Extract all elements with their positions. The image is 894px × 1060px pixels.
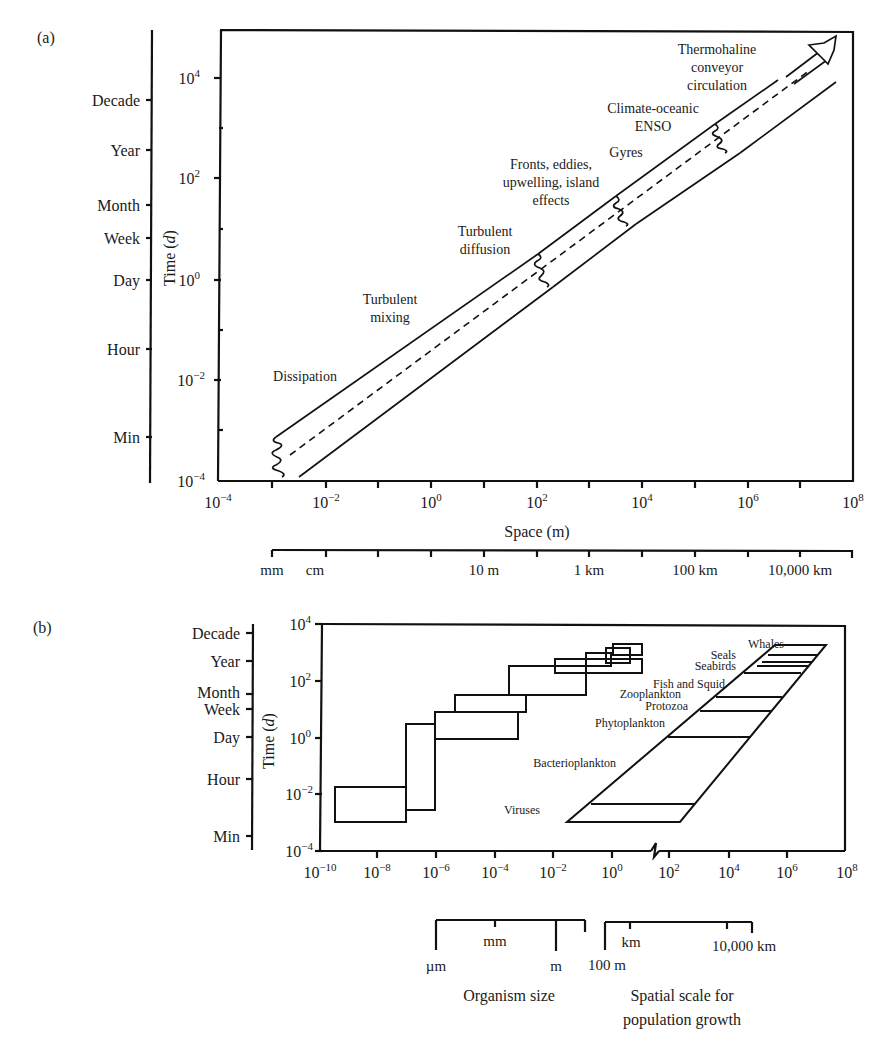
b-x-tick-1e-4: 10−4 xyxy=(481,861,509,881)
spatial-label-km: km xyxy=(621,934,641,950)
spatial-title-l2: population growth xyxy=(623,1011,741,1029)
box-whales xyxy=(613,644,642,655)
b-x-tick-1e2: 102 xyxy=(658,861,680,881)
x-tick-1e-2: 10−2 xyxy=(312,491,340,511)
label-bacterioplankton: Bacterioplankton xyxy=(533,756,616,770)
panel-b-label: (b) xyxy=(33,619,52,637)
process-dissipation: Dissipation xyxy=(273,369,337,384)
x-tick-1e4: 104 xyxy=(631,491,653,511)
time-label-hour: Hour xyxy=(107,341,141,358)
label-seabirds: Seabirds xyxy=(695,659,737,673)
process-enso-l1: Climate-oceanic xyxy=(607,101,699,116)
dist-label-cm: cm xyxy=(306,562,325,578)
spatial-label-10000km: 10,000 km xyxy=(712,938,777,954)
panel-b-organism-boxes xyxy=(335,644,642,822)
organism-size-title: Organism size xyxy=(463,987,555,1005)
y-tick-1e-2: 10−2 xyxy=(177,369,205,389)
label-protozoa: Protozoa xyxy=(645,699,688,713)
process-thermohaline-l1: Thermohaline xyxy=(678,42,757,57)
dist-label-1km: 1 km xyxy=(574,562,605,578)
time-label-min: Min xyxy=(113,429,140,446)
panel-b-y-axis-title: Time (d) xyxy=(260,713,278,769)
b-x-tick-1e4: 104 xyxy=(718,861,740,881)
x-tick-1e6: 106 xyxy=(737,491,759,511)
figure-canvas: (a) Decade Year Month Week Day Hour Min … xyxy=(0,0,894,1060)
panel-b-y-ticks: 104 102 100 10−2 10−4 xyxy=(285,613,322,860)
panel-b-organism-labels: Whales Seals Seabirds Fish and Squid Zoo… xyxy=(504,637,784,817)
box-bacterioplankton xyxy=(406,724,435,810)
x-tick-1e2: 102 xyxy=(526,491,548,511)
dist-label-10m: 10 m xyxy=(469,562,500,578)
process-enso-l2: ENSO xyxy=(635,119,672,134)
process-turbulent-mixing-l2: mixing xyxy=(370,310,410,325)
process-thermohaline-l3: circulation xyxy=(687,78,747,93)
b-x-tick-1e-8: 10−8 xyxy=(363,861,391,881)
panel-a-x-axis-title: Space (m) xyxy=(504,523,569,541)
y-tick-1e2: 102 xyxy=(179,167,201,187)
box-phytoplankton xyxy=(435,712,518,739)
time-label-decade: Decade xyxy=(92,92,140,109)
process-fronts-l2: upwelling, island xyxy=(503,175,599,190)
time-label-month: Month xyxy=(97,197,140,214)
panel-b-spatial-scale: km 10,000 km 100 m Spatial scale for pop… xyxy=(588,922,776,1029)
panel-a-arrow-icon xyxy=(786,36,836,84)
label-phytoplankton: Phytoplankton xyxy=(595,716,665,730)
b-y-tick-1e-2: 10−2 xyxy=(285,783,313,803)
x-tick-1e-4: 10−4 xyxy=(204,491,232,511)
b-time-label-month: Month xyxy=(197,684,240,701)
panel-a-time-scale: Decade Year Month Week Day Hour Min xyxy=(92,30,152,483)
size-label-m: m xyxy=(550,958,562,974)
x-tick-1e0: 100 xyxy=(420,491,442,511)
process-turbulent-diffusion-l1: Turbulent xyxy=(458,224,513,239)
spatial-title-l1: Spatial scale for xyxy=(630,987,734,1005)
b-time-label-min: Min xyxy=(213,828,240,845)
panel-a-x-ticks: 10−4 10−2 100 102 104 106 108 xyxy=(204,481,864,511)
b-y-tick-1e4: 104 xyxy=(290,613,312,633)
b-y-tick-1e2: 102 xyxy=(290,670,312,690)
y-tick-1e-4: 10−4 xyxy=(177,470,205,490)
b-x-tick-1e8: 108 xyxy=(836,861,858,881)
size-label-mm: mm xyxy=(483,933,507,949)
b-x-tick-1e0: 100 xyxy=(601,861,623,881)
process-turbulent-diffusion-l2: diffusion xyxy=(460,242,510,257)
panel-a-y-axis-title: Time (d) xyxy=(161,230,179,286)
b-x-tick-1e-2: 10−2 xyxy=(539,861,567,881)
b-x-tick-1e6: 106 xyxy=(776,861,798,881)
panel-a-label: (a) xyxy=(37,29,55,47)
process-thermohaline-l2: conveyor xyxy=(691,60,743,75)
spatial-label-100m: 100 m xyxy=(588,957,626,973)
label-viruses: Viruses xyxy=(504,803,540,817)
box-protozoa xyxy=(455,695,526,712)
panel-a-distance-scale: mm cm 10 m 1 km 100 km 10,000 km xyxy=(260,550,852,578)
b-y-tick-1e0: 100 xyxy=(290,727,312,747)
panel-b-x-ticks: 10−10 10−8 10−6 10−4 10−2 100 102 104 10… xyxy=(303,851,858,881)
time-label-day: Day xyxy=(113,272,140,290)
process-turbulent-mixing-l1: Turbulent xyxy=(363,292,418,307)
process-fronts-l1: Fronts, eddies, xyxy=(510,157,592,172)
time-label-week: Week xyxy=(104,230,140,247)
panel-a-y-ticks: 104 102 100 10−2 10−4 xyxy=(177,67,223,490)
b-time-label-decade: Decade xyxy=(192,625,240,642)
panel-a-process-labels: Dissipation Turbulent mixing Turbulent d… xyxy=(273,42,756,384)
panel-b-time-scale: Decade Year Month Week Day Hour Min xyxy=(192,624,253,850)
process-fronts-l3: effects xyxy=(532,193,569,208)
dist-label-100km: 100 km xyxy=(672,562,718,578)
b-time-label-day: Day xyxy=(213,729,240,747)
x-tick-1e8: 108 xyxy=(842,491,864,511)
box-viruses xyxy=(335,787,406,822)
b-time-label-hour: Hour xyxy=(207,771,241,788)
size-label-um: µm xyxy=(426,958,447,974)
dist-label-mm: mm xyxy=(260,562,284,578)
label-whales: Whales xyxy=(748,637,784,651)
panel-b-organism-size-scale: µm mm m Organism size xyxy=(426,920,585,1005)
b-x-tick-1e-10: 10−10 xyxy=(303,861,337,881)
y-tick-1e4: 104 xyxy=(179,67,201,87)
y-tick-1e0: 100 xyxy=(179,269,201,289)
panel-a-process-band xyxy=(272,36,836,477)
b-y-tick-1e-4: 10−4 xyxy=(285,840,313,860)
process-gyres: Gyres xyxy=(609,145,642,160)
box-zooplankton xyxy=(509,666,586,695)
dist-label-10000km: 10,000 km xyxy=(768,562,833,578)
time-label-year: Year xyxy=(111,142,141,159)
b-time-label-week: Week xyxy=(204,701,240,718)
